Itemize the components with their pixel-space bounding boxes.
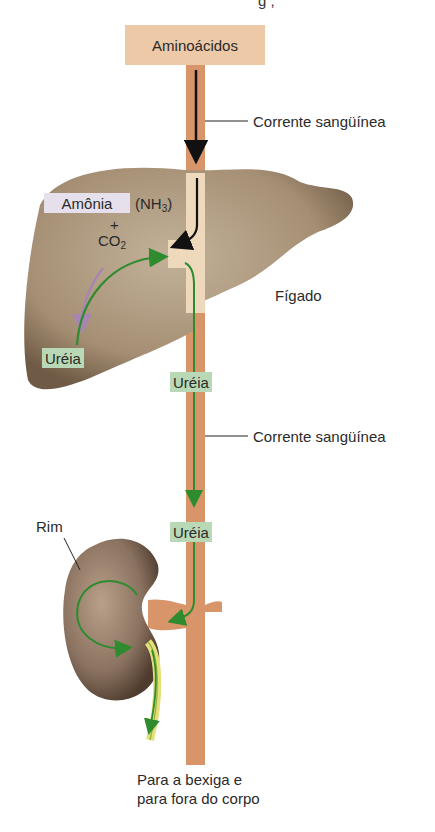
blood-vessel — [186, 65, 205, 765]
leader-kidney — [64, 538, 80, 570]
urea-tag-vessel-1: Uréia — [170, 372, 212, 392]
urea-tag-vessel-2: Uréia — [170, 522, 212, 542]
ammonia-tag: Amônia — [44, 193, 130, 213]
aminoacids-box: Aminoácidos — [125, 25, 265, 65]
vessel-in-liver — [186, 173, 205, 313]
renal-branch — [148, 599, 186, 630]
bloodstream-label-bottom: Corrente sangüínea — [253, 429, 386, 444]
bloodstream-label-top: Corrente sangüínea — [253, 114, 386, 129]
nh3-formula: (NH3) — [135, 196, 172, 214]
urea-tag-liver: Uréia — [42, 348, 84, 368]
exit-label-line2: para fora do corpo — [137, 791, 260, 806]
exit-label-line1: Para a bexiga e — [137, 772, 242, 787]
co2-formula: CO2 — [98, 233, 126, 251]
plus-sign: + — [110, 217, 119, 232]
kidney-label: Rim — [36, 519, 63, 534]
liver-label: Fígado — [275, 288, 322, 303]
